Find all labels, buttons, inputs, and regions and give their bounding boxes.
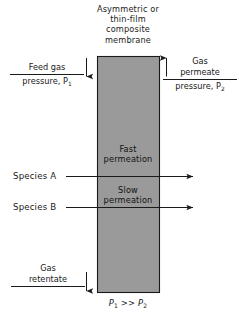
membrane-slab xyxy=(98,57,160,293)
gas-retentate-divider xyxy=(11,286,85,287)
membrane-title-caption: Asymmetric or thin-film composite membra… xyxy=(68,4,188,45)
gas-retentate-label-group: Gas retentate xyxy=(11,263,85,288)
pressure-relation-label: P1 >> P2 xyxy=(109,298,148,309)
feed-gas-label: Feed gas xyxy=(10,62,84,73)
feed-gas-divider xyxy=(10,74,84,75)
species-a-label: Species A xyxy=(13,171,56,181)
gas-permeate-label-line-2: permeate xyxy=(163,67,237,78)
fast-permeation-line-2: permeation xyxy=(92,154,164,164)
pressure-relation-right: P xyxy=(138,298,143,308)
pressure-relation-operator: >> xyxy=(121,298,135,308)
fast-permeation-line-1: Fast xyxy=(92,144,164,154)
membrane-title-line-3: composite xyxy=(68,24,188,34)
feed-gas-label-group: Feed gas pressure, P1 xyxy=(10,62,84,88)
species-b-label: Species B xyxy=(13,202,56,212)
feed-pressure-subscript: 1 xyxy=(68,81,72,87)
gas-permeate-label-group: Gas permeate pressure, P2 xyxy=(163,56,237,93)
gas-permeate-divider xyxy=(163,79,237,80)
membrane-separation-diagram: Asymmetric or thin-film composite membra… xyxy=(0,0,239,325)
slow-permeation-line-2: permeation xyxy=(92,195,164,205)
gas-retentate-label-line-1: Gas xyxy=(11,263,85,274)
feed-pressure-label: pressure, P1 xyxy=(10,76,84,88)
slow-permeation-label: Slow permeation xyxy=(92,185,164,206)
membrane-title-line-1: Asymmetric or xyxy=(68,4,188,14)
gas-retentate-label-line-2: retentate xyxy=(11,274,85,285)
permeate-pressure-subscript: 2 xyxy=(221,86,225,92)
gas-permeate-label-line-1: Gas xyxy=(163,56,237,67)
pressure-relation-left-subscript: 1 xyxy=(114,302,118,309)
permeate-pressure-label: pressure, P2 xyxy=(163,81,237,93)
fast-permeation-label: Fast permeation xyxy=(92,144,164,165)
pressure-relation-right-subscript: 2 xyxy=(143,302,147,309)
membrane-title-line-4: membrane xyxy=(68,35,188,45)
slow-permeation-line-1: Slow xyxy=(92,185,164,195)
membrane-title-line-2: thin-film xyxy=(68,14,188,24)
